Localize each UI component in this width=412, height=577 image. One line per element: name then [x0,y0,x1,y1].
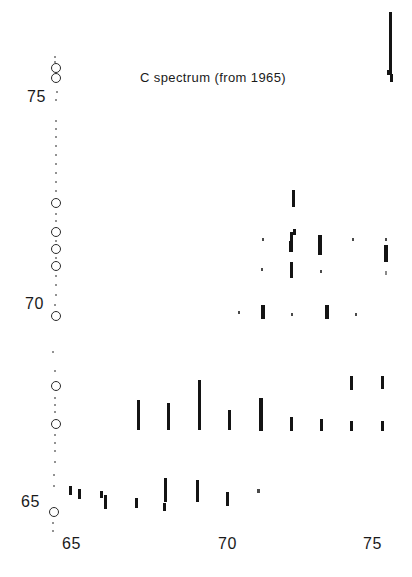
reference-circle-marker [51,73,61,83]
reference-dot-marker [54,442,56,444]
spectral-line-mark [350,421,353,431]
spectral-line-mark [290,417,293,431]
spectral-line-mark [293,229,296,235]
x-tick-label-65: 65 [62,536,81,552]
reference-dot-marker [56,91,58,93]
reference-circle-marker [51,198,61,208]
reference-circle-marker [51,311,61,321]
x-tick-label-75: 75 [363,536,382,552]
reference-dot-marker [55,294,57,296]
spectral-line-mark [390,74,393,82]
spectral-line-mark [290,262,293,278]
spectral-line-mark [290,232,293,241]
reference-dot-marker [55,128,57,130]
reference-circle-marker [51,419,61,429]
y-axis-tick-labels: 757065 [0,0,412,577]
spectral-line-mark [69,486,72,495]
spectral-line-mark [228,410,231,430]
reference-dot-marker [52,530,54,532]
reference-circle-marker [51,244,61,254]
spectral-line-mark [261,305,265,319]
spectral-line-mark [137,400,140,430]
spectral-line-mark [78,489,81,499]
spectral-line-mark [320,270,322,273]
y-tick-label-70: 70 [25,296,44,312]
spectrum-figure: C spectrum (from 1965) 757065 657075 [0,0,412,577]
reference-dot-marker [54,304,56,306]
spectral-line-mark [381,376,384,389]
spectral-line-mark [198,380,201,430]
y-tick-label-75: 75 [27,89,46,105]
spectral-line-mark [318,235,322,255]
reference-dot-marker [54,461,56,463]
page-title: C spectrum (from 1965) [140,71,286,84]
reference-circle-marker [51,261,61,271]
spectral-line-mark [238,311,240,314]
spectral-line-mark [167,403,170,430]
spectral-line-mark [325,305,329,319]
spectral-line-mark [387,70,392,75]
reference-dot-marker [55,213,57,215]
spectral-line-mark [350,376,353,390]
reference-dot-marker [55,275,57,277]
spectral-line-mark [262,238,264,241]
reference-dot-marker [55,181,57,183]
reference-dot-marker [52,351,54,353]
reference-dot-marker [55,163,57,165]
reference-dot-marker [55,99,57,101]
reference-dot-marker [55,257,57,259]
reference-dot-marker [54,397,56,399]
spectral-line-mark [226,492,229,506]
reference-dot-marker [53,474,55,476]
spectral-line-mark [289,241,293,252]
spectral-line-mark [261,268,263,271]
spectral-line-mark [104,495,107,509]
reference-circle-marker [51,227,61,237]
spectral-line-mark [291,313,293,316]
spectral-line-mark [259,398,263,431]
spectral-line-mark [385,271,387,275]
reference-dot-marker [54,404,56,406]
x-tick-label-70: 70 [218,536,237,552]
spectral-line-mark [100,491,103,498]
spectral-line-mark [355,313,357,316]
spectral-line-mark [196,480,199,502]
reference-dot-marker [55,220,57,222]
reference-dot-marker [54,411,56,413]
spectral-line-mark [292,190,295,207]
reference-dot-marker [54,434,56,436]
reference-dot-marker [55,145,57,147]
x-axis-tick-labels: 657075 [0,0,412,577]
spectral-line-mark [163,503,166,511]
reference-circle-marker [49,507,59,517]
spectral-line-mark [164,478,167,502]
reference-dot-marker [52,522,54,524]
spectral-line-mark [389,12,392,72]
reference-dot-marker [55,240,57,242]
reference-dot-marker [55,136,57,138]
reference-dot-marker [53,485,55,487]
reference-dot-marker [55,284,57,286]
spectral-marks [0,0,412,577]
reference-dot-marker [54,450,56,452]
reference-dot-marker [55,172,57,174]
reference-circle-marker [51,381,61,391]
reference-dot-marker [55,154,57,156]
spectral-line-mark [384,245,388,262]
reference-dot-marker [54,370,56,372]
reference-marker-line [0,0,412,577]
y-tick-label-65: 65 [21,494,40,510]
reference-dot-marker [55,190,57,192]
reference-dot-marker [54,61,56,63]
reference-circle-marker [51,63,61,73]
spectral-line-mark [352,238,354,241]
spectral-line-mark [135,498,138,508]
spectral-line-mark [385,238,387,241]
spectral-line-mark [381,421,384,431]
reference-dot-marker [55,120,57,122]
spectral-line-mark [257,489,260,493]
reference-dot-marker [54,56,56,58]
spectral-line-mark [320,419,323,431]
